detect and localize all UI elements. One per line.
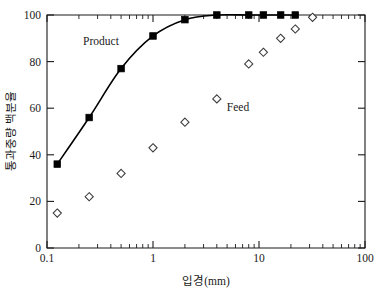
chart-figure: 0.1 1 10 100 0 20 40 60 80 100 입경(mm) 통과… (0, 0, 387, 296)
data-point-feed-9 (291, 25, 299, 33)
data-point-feed-4 (181, 118, 189, 126)
data-point-feed-0 (53, 209, 61, 217)
data-point-product-7 (260, 12, 267, 19)
data-point-feed-5 (213, 95, 221, 103)
x-tick-label-1: 1 (150, 252, 156, 264)
data-point-product-5 (214, 12, 221, 19)
y-tick-label-5: 100 (24, 9, 42, 21)
x-tick-label-0: 0.1 (40, 252, 55, 264)
y-tick-label-4: 80 (30, 56, 42, 68)
data-point-feed-2 (117, 169, 125, 177)
y-tick-label-2: 40 (30, 149, 42, 161)
y-tick-label-0: 0 (35, 242, 41, 254)
chart-canvas: 0.1 1 10 100 0 20 40 60 80 100 입경(mm) 통과… (0, 0, 387, 296)
x-axis-ticks (47, 15, 365, 248)
y-tick-label-1: 20 (30, 195, 42, 207)
x-axis-title: 입경(mm) (182, 274, 230, 288)
y-tick-label-3: 60 (30, 102, 42, 114)
plot-frame (47, 15, 365, 248)
data-point-product-6 (245, 12, 252, 19)
x-tick-label-3: 100 (356, 252, 374, 264)
y-axis-ticks (47, 15, 365, 248)
data-point-product-9 (292, 12, 299, 19)
data-point-feed-3 (149, 144, 157, 152)
y-axis-title: 통과중량 백분율 (5, 91, 17, 171)
data-point-product-2 (118, 65, 125, 72)
data-point-product-3 (150, 33, 157, 40)
data-point-product-0 (54, 161, 61, 168)
data-point-product-4 (182, 16, 189, 23)
data-point-feed-8 (277, 34, 285, 42)
x-tick-label-2: 10 (253, 252, 265, 264)
data-point-feed-6 (245, 60, 253, 68)
annotation-feed: Feed (227, 101, 250, 113)
data-point-product-1 (86, 114, 93, 121)
data-point-product-8 (277, 12, 284, 19)
data-point-feed-7 (259, 48, 267, 56)
annotation-product: Product (83, 35, 120, 47)
data-point-feed-1 (85, 193, 93, 201)
